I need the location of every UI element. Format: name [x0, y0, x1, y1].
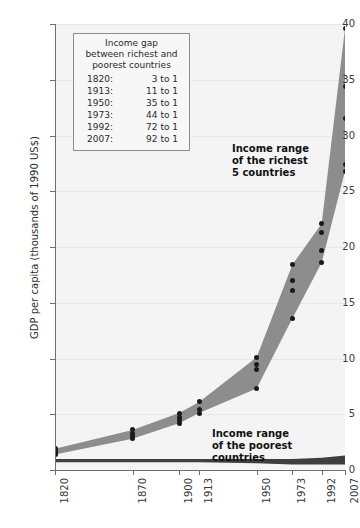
legend-row: 1973:44 to 1 — [79, 109, 184, 121]
legend-row-year: 1973: — [87, 109, 113, 121]
x-tick-mark — [257, 470, 258, 475]
data-point — [290, 278, 295, 283]
x-tick-label: 1900 — [184, 478, 194, 503]
data-point — [254, 355, 259, 360]
x-tick-label: 2007 — [350, 478, 360, 503]
x-tick-mark — [292, 470, 293, 475]
y-tick-mark — [50, 359, 55, 360]
y-axis-line — [55, 24, 56, 471]
legend-row: 1950:35 to 1 — [79, 97, 184, 109]
x-tick-label: 1973 — [297, 478, 307, 503]
legend-title-line-1: Income gap — [79, 38, 184, 49]
y-tick-mark — [50, 136, 55, 137]
x-tick-label: 1870 — [138, 478, 148, 503]
legend-title-line-2: between richest and — [79, 49, 184, 60]
x-tick-label: 1992 — [327, 478, 337, 503]
rich-range-annotation: Income range of the richest 5 countries — [232, 143, 332, 179]
data-point — [343, 169, 346, 174]
legend-row-ratio: 92 to 1 — [146, 133, 178, 145]
x-tick-label: 1950 — [262, 478, 272, 503]
poor-annotation-line-2: of the poorest — [212, 440, 322, 452]
legend-row-ratio: 72 to 1 — [146, 121, 178, 133]
y-tick-mark — [50, 414, 55, 415]
y-tick-label: 10 — [321, 354, 355, 364]
y-tick-label: 40 — [321, 19, 355, 29]
poor-annotation-line-3: countries — [212, 452, 322, 464]
legend-row-ratio: 3 to 1 — [152, 73, 178, 85]
rich-annotation-line-2: of the richest — [232, 155, 332, 167]
x-tick-label: 1913 — [204, 478, 214, 503]
y-tick-label: 15 — [321, 298, 355, 308]
y-axis-title: GDP per capita (thousands of 1990 US$) — [29, 108, 40, 368]
data-point — [197, 411, 202, 416]
y-tick-label: 0 — [321, 465, 355, 475]
legend-row: 1913:11 to 1 — [79, 85, 184, 97]
y-tick-label: 25 — [321, 186, 355, 196]
y-tick-label: 35 — [321, 75, 355, 85]
income-gap-legend: Income gap between richest and poorest c… — [73, 33, 190, 151]
poor-annotation-line-1: Income range — [212, 428, 322, 440]
y-tick-mark — [50, 80, 55, 81]
data-point — [290, 288, 295, 293]
legend-row-ratio: 11 to 1 — [146, 85, 178, 97]
y-tick-label: 5 — [321, 409, 355, 419]
data-point — [343, 162, 346, 167]
y-tick-mark — [50, 24, 55, 25]
x-tick-mark — [133, 470, 134, 475]
x-tick-mark — [345, 470, 346, 475]
rich-annotation-line-1: Income range — [232, 143, 332, 155]
x-tick-mark — [199, 470, 200, 475]
legend-row-year: 2007: — [87, 133, 113, 145]
legend-row-ratio: 35 to 1 — [146, 97, 178, 109]
legend-title: Income gap between richest and poorest c… — [79, 38, 184, 71]
y-tick-mark — [50, 247, 55, 248]
data-point — [177, 421, 182, 426]
rich-annotation-line-3: 5 countries — [232, 167, 332, 179]
y-tick-label: 30 — [321, 131, 355, 141]
y-tick-mark — [50, 303, 55, 304]
x-tick-mark — [55, 470, 56, 475]
x-tick-mark — [179, 470, 180, 475]
legend-row: 1820:3 to 1 — [79, 73, 184, 85]
legend-row-year: 1992: — [87, 121, 113, 133]
y-tick-label: 20 — [321, 242, 355, 252]
y-tick-mark — [50, 191, 55, 192]
legend-row-year: 1820: — [87, 73, 113, 85]
data-point — [290, 316, 295, 321]
data-point — [254, 362, 259, 367]
legend-rows: 1820:3 to 11913:11 to 11950:35 to 11973:… — [79, 73, 184, 145]
legend-title-line-3: poorest countries — [79, 60, 184, 71]
legend-row: 1992:72 to 1 — [79, 121, 184, 133]
x-tick-mark — [322, 470, 323, 475]
plot-area: Income gap between richest and poorest c… — [55, 24, 345, 470]
legend-row-year: 1950: — [87, 97, 113, 109]
x-tick-label: 1820 — [60, 478, 70, 503]
legend-row-year: 1913: — [87, 85, 113, 97]
legend-row-ratio: 44 to 1 — [146, 109, 178, 121]
legend-row: 2007:92 to 1 — [79, 133, 184, 145]
poor-range-annotation: Income range of the poorest countries — [212, 428, 322, 464]
x-axis-line — [55, 470, 346, 471]
